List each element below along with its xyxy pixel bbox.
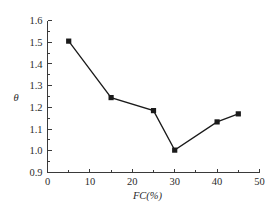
x-tick-label: 50 — [254, 176, 265, 187]
y-tick-label: 1.1 — [29, 124, 42, 135]
data-point-marker — [172, 148, 177, 153]
y-tick-label: 0.9 — [29, 167, 42, 178]
data-point-marker — [236, 111, 241, 116]
y-tick-label: 1.3 — [29, 80, 42, 91]
data-point-marker — [215, 119, 220, 124]
y-tick-label: 1.5 — [29, 37, 42, 48]
x-tick-label: 0 — [45, 176, 50, 187]
x-tick-label: 40 — [212, 176, 223, 187]
chart-container: 0.91.01.11.21.31.41.51.6 01020304050 FC(… — [0, 0, 278, 211]
data-point-marker — [151, 108, 156, 113]
y-tick-label: 1.2 — [29, 102, 42, 113]
line-chart: 0.91.01.11.21.31.41.51.6 01020304050 FC(… — [0, 0, 278, 211]
x-tick-label: 30 — [169, 176, 180, 187]
y-tick-label: 1.6 — [29, 15, 42, 26]
y-tick-label: 1.0 — [29, 145, 42, 156]
y-tick-label: 1.4 — [29, 59, 43, 70]
x-tick-label: 10 — [85, 176, 96, 187]
x-axis-label: FC(%) — [132, 190, 163, 202]
data-point-marker — [109, 95, 114, 100]
x-tick-label: 20 — [127, 176, 138, 187]
y-axis-label: θ — [13, 92, 18, 103]
data-point-marker — [66, 39, 71, 44]
